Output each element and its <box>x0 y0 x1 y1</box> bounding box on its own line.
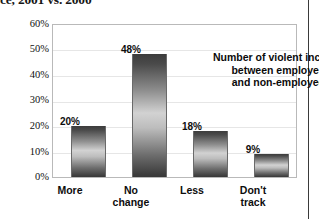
bar-value-label-more: 20% <box>40 116 100 127</box>
y-tick-label-40: 40% <box>5 70 49 80</box>
y-tick-label-30: 30% <box>5 95 49 105</box>
chart-screenshot: ce, 2001 vs. 2000 60% 50% 40% 30% 20% 10… <box>0 0 319 219</box>
bar-dont-track[interactable] <box>254 154 289 177</box>
x-category-label-no-change: No change <box>96 185 166 208</box>
bar-value-label-less: 18% <box>162 121 222 132</box>
y-tick-label-50: 50% <box>5 44 49 54</box>
bar-more[interactable] <box>71 126 106 177</box>
annotation-line-2: between employees <box>213 64 319 77</box>
annotation-line-3: and non-employees <box>213 76 319 89</box>
chart-annotation: Number of violent incidents between empl… <box>213 51 319 89</box>
bar-value-label-dont-track: 9% <box>223 144 283 155</box>
annotation-line-1: Number of violent incidents <box>213 51 319 64</box>
bar-no-change[interactable] <box>132 54 167 177</box>
x-category-label-more: More <box>35 185 105 197</box>
y-tick-label-0: 0% <box>5 172 49 182</box>
y-tick-label-60: 60% <box>5 19 49 29</box>
bar-value-label-no-change: 48% <box>101 44 161 55</box>
x-category-label-less: Less <box>157 185 227 197</box>
page-column-rule <box>308 0 309 219</box>
x-category-label-dont-track: Don't track <box>218 185 288 208</box>
y-tick-label-10: 10% <box>5 147 49 157</box>
gridline-30 <box>53 102 296 103</box>
